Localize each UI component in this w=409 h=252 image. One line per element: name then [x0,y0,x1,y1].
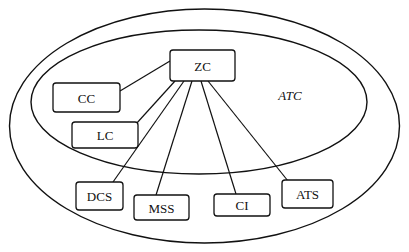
edge-zc-cc [120,61,170,91]
system-diagram: ATC ZC CC LC DCS MSS CI ATS [0,0,409,252]
node-zc-label: ZC [194,59,211,74]
edge-zc-ats [208,81,288,181]
node-mss: MSS [134,195,189,220]
edge-zc-mss [156,81,192,195]
node-ci: CI [214,194,270,216]
node-cc: CC [53,83,120,112]
node-dcs: DCS [76,182,123,210]
edge-zc-ci [201,81,236,194]
node-zc: ZC [170,50,235,81]
node-lc-label: LC [97,128,114,143]
atc-region-label: ATC [277,88,302,103]
node-ats: ATS [282,180,333,208]
node-lc: LC [72,122,138,148]
node-ats-label: ATS [296,187,319,202]
node-dcs-label: DCS [87,189,112,204]
node-ci-label: CI [236,198,249,213]
node-mss-label: MSS [148,201,174,216]
node-cc-label: CC [78,91,95,106]
outer-region-ellipse [10,9,400,243]
